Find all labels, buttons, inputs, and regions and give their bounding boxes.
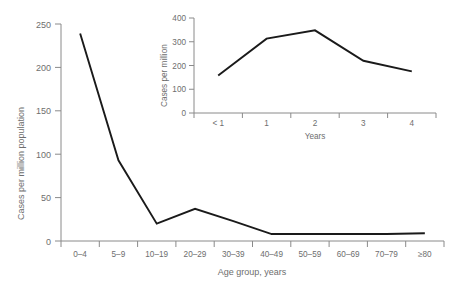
main-y-ticks xyxy=(55,24,61,241)
main-x-tick-label: 20–29 xyxy=(184,250,207,259)
inset-y-tick-label: 100 xyxy=(172,85,186,94)
main-y-tick-label: 0 xyxy=(46,237,51,247)
main-chart: Cases per million population 250 200 150… xyxy=(16,20,444,278)
inset-x-tick-label: 4 xyxy=(410,119,415,128)
main-x-tick-label: 50–59 xyxy=(299,250,322,259)
chart-canvas: Cases per million population 250 200 150… xyxy=(0,0,458,282)
main-y-tick-label: 150 xyxy=(36,106,51,116)
inset-y-tick-labels: 400 300 200 100 0 xyxy=(172,14,186,118)
main-x-tick-label: 5–9 xyxy=(112,250,126,259)
main-x-tick-labels: 0–4 5–9 10–19 20–29 30–39 40–49 50–59 60… xyxy=(73,250,432,259)
main-x-tick-label: 10–19 xyxy=(145,250,168,259)
inset-x-ticks xyxy=(194,113,436,118)
inset-chart: Cases per million 400 300 200 100 0 xyxy=(160,14,436,141)
inset-x-tick-label: < 1 xyxy=(212,119,224,128)
inset-y-tick-label: 200 xyxy=(172,62,186,71)
main-x-tick-label: 30–39 xyxy=(222,250,245,259)
main-y-axis-title: Cases per million population xyxy=(16,107,26,220)
inset-x-tick-label: 2 xyxy=(313,119,318,128)
main-x-tick-label: ≥80 xyxy=(418,250,432,259)
inset-x-tick-label: 1 xyxy=(264,119,269,128)
inset-data-series xyxy=(218,30,412,75)
inset-x-tick-labels: < 1 1 2 3 4 xyxy=(212,119,414,128)
inset-y-tick-label: 300 xyxy=(172,38,186,47)
main-x-tick-label: 40–49 xyxy=(260,250,283,259)
figure-container: Cases per million population 250 200 150… xyxy=(0,0,458,282)
main-x-tick-label: 70–79 xyxy=(375,250,398,259)
main-x-axis-title: Age group, years xyxy=(218,267,287,277)
main-x-tick-label: 0–4 xyxy=(73,250,87,259)
inset-y-axis-title: Cases per million xyxy=(160,44,169,107)
main-y-tick-label: 50 xyxy=(41,193,51,203)
inset-x-axis-title: Years xyxy=(305,132,326,141)
main-y-tick-labels: 250 200 150 100 50 0 xyxy=(36,20,51,247)
main-x-ticks xyxy=(61,241,444,247)
main-y-tick-label: 100 xyxy=(36,150,51,160)
inset-y-tick-label: 400 xyxy=(172,14,186,23)
inset-y-ticks xyxy=(189,18,194,113)
main-y-tick-label: 200 xyxy=(36,63,51,73)
main-x-tick-label: 60–69 xyxy=(337,250,360,259)
inset-y-tick-label: 0 xyxy=(181,109,186,118)
inset-x-tick-label: 3 xyxy=(361,119,366,128)
main-y-tick-label: 250 xyxy=(36,20,51,30)
